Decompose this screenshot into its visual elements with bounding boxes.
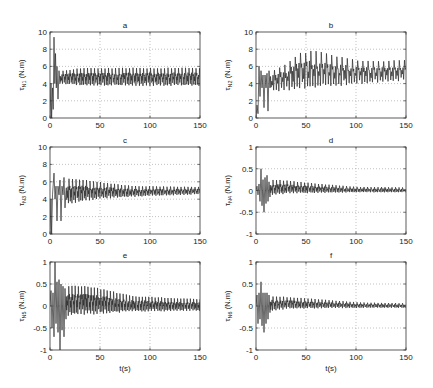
y-tick-label: 8 (43, 45, 48, 54)
y-tick-label: 6 (249, 62, 254, 71)
subplot-a: 0501001500246810aτN1 (N.m) (17, 21, 207, 130)
y-tick-label: 8 (43, 160, 48, 169)
y-tick-label: 0.5 (242, 280, 254, 289)
subplot-title: a (123, 21, 128, 30)
y-tick-label: 6 (43, 62, 48, 71)
y-tick-label: 0.5 (36, 280, 48, 289)
series-line-tau_N2 (256, 51, 406, 118)
x-tick-label: 100 (143, 237, 157, 246)
y-tick-label: 2 (43, 213, 48, 222)
y-tick-label: 1 (249, 258, 254, 267)
x-tick-label: 150 (193, 237, 207, 246)
x-tick-label: 50 (302, 121, 311, 130)
series-line-tau_N4 (256, 169, 405, 213)
subplot-c: 0501001500246810cτN3 (N.m) (17, 136, 207, 246)
y-axis-label: τN2 (N.m) (223, 59, 233, 90)
y-tick-label: 4 (249, 80, 254, 89)
y-tick-label: -0.5 (239, 208, 253, 217)
subplot-b: 0501001500246810bτN2 (N.m) (223, 21, 413, 130)
x-tick-label: 150 (193, 121, 207, 130)
y-tick-label: 1 (43, 258, 48, 267)
y-tick-label: 0 (43, 302, 48, 311)
y-tick-label: 0 (249, 187, 254, 196)
x-tick-label: 0 (254, 353, 259, 362)
y-tick-label: -0.5 (239, 324, 253, 333)
x-tick-label: 100 (349, 237, 363, 246)
x-axis-label: t(s) (325, 364, 337, 373)
x-tick-label: 0 (48, 121, 53, 130)
y-tick-label: 0 (43, 230, 48, 239)
series-line-tau_N5 (50, 262, 200, 350)
y-tick-label: 1 (249, 143, 254, 152)
subplot-f: 050100150-1-0.500.51fτN6 (N.m)t(s) (223, 251, 413, 373)
x-tick-label: 0 (48, 353, 53, 362)
y-axis-label: τN6 (N.m) (223, 290, 233, 321)
x-tick-label: 100 (143, 121, 157, 130)
y-tick-label: 0 (43, 114, 48, 123)
subplot-title: d (329, 136, 333, 145)
y-tick-label: 0 (249, 302, 254, 311)
y-tick-label: -1 (246, 230, 254, 239)
subplot-title: f (330, 251, 333, 260)
series-line-tau_N6 (256, 282, 405, 333)
x-tick-label: 150 (399, 353, 413, 362)
subplot-title: c (123, 136, 127, 145)
y-axis-label: τN1 (N.m) (17, 59, 27, 90)
y-axis-label: τN4 (N.m) (223, 175, 233, 206)
x-tick-label: 0 (254, 237, 259, 246)
y-tick-label: -1 (40, 346, 48, 355)
x-tick-label: 50 (96, 121, 105, 130)
y-tick-label: 6 (43, 178, 48, 187)
x-tick-label: 50 (302, 237, 311, 246)
x-tick-label: 100 (349, 353, 363, 362)
x-tick-label: 0 (48, 237, 53, 246)
x-tick-label: 100 (349, 121, 363, 130)
x-tick-label: 100 (143, 353, 157, 362)
subplot-e: 050100150-1-0.500.51eτN5 (N.m)t(s) (17, 251, 207, 373)
x-tick-label: 50 (96, 353, 105, 362)
y-tick-label: 0 (249, 114, 254, 123)
figure: 0501001500246810aτN1 (N.m)05010015002468… (0, 0, 433, 388)
x-tick-label: 150 (193, 353, 207, 362)
y-tick-label: -1 (246, 346, 254, 355)
subplot-d: 050100150-1-0.500.51dτN4 (N.m) (223, 136, 413, 246)
y-tick-label: 10 (244, 28, 253, 37)
y-axis-label: τN5 (N.m) (17, 290, 27, 321)
y-tick-label: 4 (43, 80, 48, 89)
x-tick-label: 0 (254, 121, 259, 130)
x-tick-label: 150 (399, 121, 413, 130)
series-line-tau_N3 (50, 173, 200, 234)
x-axis-label: t(s) (119, 364, 131, 373)
y-axis-label: τN3 (N.m) (17, 175, 27, 206)
y-tick-label: 4 (43, 195, 48, 204)
y-tick-label: 8 (249, 45, 254, 54)
x-tick-label: 50 (96, 237, 105, 246)
subplot-title: b (329, 21, 334, 30)
x-tick-label: 150 (399, 237, 413, 246)
y-tick-label: 2 (249, 97, 254, 106)
y-tick-label: 2 (43, 97, 48, 106)
x-tick-label: 50 (302, 353, 311, 362)
y-tick-label: 10 (38, 143, 47, 152)
y-tick-label: 10 (38, 28, 47, 37)
y-tick-label: 0.5 (242, 165, 254, 174)
subplot-title: e (123, 251, 128, 260)
y-tick-label: -0.5 (33, 324, 47, 333)
